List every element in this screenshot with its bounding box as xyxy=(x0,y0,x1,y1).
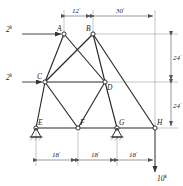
joint-label-A: A xyxy=(56,24,62,33)
dim-label-24-lower: 24' xyxy=(173,102,182,110)
joint-label-E: E xyxy=(37,118,43,127)
dimension-right: 24' 24' xyxy=(171,36,182,126)
dim-label-18-left: 18' xyxy=(52,151,61,159)
load-label-C: 2k xyxy=(6,72,13,82)
truss-diagram-figure: A B C D E F G H 2k 2k xyxy=(0,0,183,186)
dim-label-18-right: 18' xyxy=(129,151,138,159)
member-B-C xyxy=(45,34,93,82)
joint-label-D: D xyxy=(106,83,113,92)
truss-members xyxy=(36,34,155,128)
member-A-C xyxy=(45,34,64,82)
joint-nodes xyxy=(34,32,157,130)
member-B-H xyxy=(93,34,155,128)
joint-label-F: F xyxy=(79,118,85,127)
joint-A xyxy=(62,32,66,36)
load-arrow-A: 2k xyxy=(6,24,61,34)
joint-label-C: C xyxy=(37,72,43,81)
dimension-bottom: 18' 18' 18' xyxy=(38,151,153,160)
truss-canvas: A B C D E F G H 2k 2k xyxy=(0,0,183,186)
member-C-F xyxy=(45,82,78,128)
joint-label-B: B xyxy=(86,24,91,33)
load-label-H: 10k xyxy=(157,173,168,183)
joint-C xyxy=(43,80,47,84)
dim-label-18-middle: 18' xyxy=(91,151,100,159)
dim-label-12: 12' xyxy=(72,7,81,15)
load-arrow-H: 10k xyxy=(155,130,168,183)
dim-label-24-upper: 24' xyxy=(173,54,182,62)
load-label-A: 2k xyxy=(6,24,13,34)
joint-label-H: H xyxy=(156,118,163,127)
joint-B xyxy=(91,32,95,36)
dimension-top: 12' 30' xyxy=(66,7,153,16)
joint-label-G: G xyxy=(119,118,125,127)
dim-label-30: 30' xyxy=(115,7,125,15)
support-hatch-E xyxy=(30,137,43,140)
support-hatch-G xyxy=(111,137,124,140)
